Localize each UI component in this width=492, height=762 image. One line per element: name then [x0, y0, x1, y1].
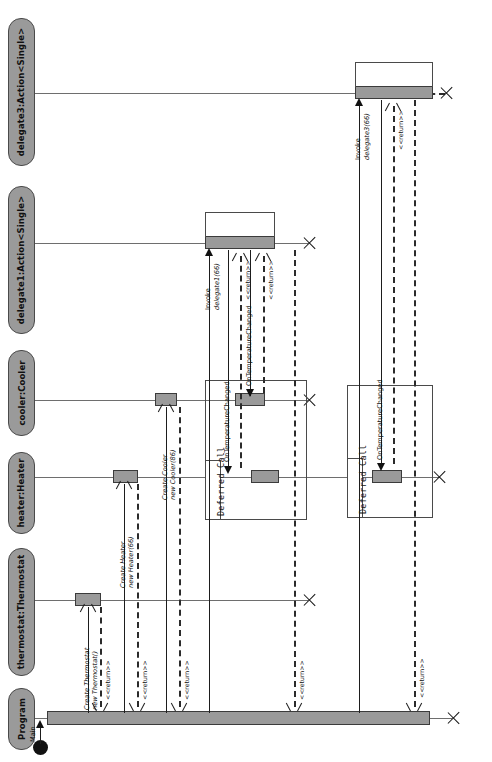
return-line-2: [137, 484, 139, 707]
lifeline-header-delegate1: delegate1:Action<Single>: [8, 186, 35, 334]
lifeline-header-delegate3: delegate3:Action<Single>: [8, 18, 35, 166]
message-arrowhead-create-heater: [119, 481, 129, 490]
message-sublabel-create-cooler: new Cooler(86): [170, 449, 178, 500]
activation-bar-delegate3: [355, 86, 433, 99]
fragment-label-2: Deferred Call: [359, 445, 369, 514]
nesting-bracket-delegate1: [205, 212, 275, 237]
message-line-create-cooler: [166, 407, 167, 713]
return-line-4: [240, 256, 242, 468]
message-sublabel-invoke-delegate1: delegate1(66): [214, 263, 222, 310]
return-arrowhead-3: [174, 702, 184, 711]
return-label-6: <<return>>: [298, 660, 305, 700]
activation-bar-program-main: [47, 711, 430, 725]
message-label-ontempchanged-heater-2: OnTemperatureChanged: [377, 379, 385, 460]
lifeline-label: heater:Heater: [17, 459, 27, 528]
lifeline-header-cooler: cooler:Cooler: [8, 350, 35, 436]
return-arrowhead-2: [132, 702, 142, 711]
activation-bar-delegate1: [205, 236, 275, 249]
lifeline-header-thermostat: thermostat:Thermostat: [8, 548, 35, 676]
lifeline-rail-thermostat-b: [200, 600, 308, 601]
message-arrowhead-create-thermostat: [83, 604, 93, 613]
destruction-marker-program: [447, 711, 461, 725]
lifeline-rail-delegate3: [35, 93, 355, 94]
message-arrowhead-ontempchanged-heater: [224, 466, 232, 474]
return-line-7: [393, 106, 395, 464]
message-label-invoke-delegate1: Invoke: [205, 288, 213, 310]
message-sublabel-invoke-delegate3: delegate3(66): [364, 113, 372, 160]
lifeline-rail-program: [35, 718, 47, 719]
message-label-ontempchanged-heater: OnTemperatureChanged: [224, 381, 232, 462]
message-arrowhead-invoke-delegate1: [205, 248, 213, 256]
return-line-8: [414, 100, 416, 707]
return-arrowhead-8: [409, 702, 419, 711]
message-arrowhead-invoke-delegate3: [355, 98, 363, 106]
return-line-6: [294, 250, 296, 707]
message-line-invoke-delegate3: [359, 100, 360, 713]
message-line-create-heater: [124, 484, 125, 713]
destruction-marker-heater: [433, 470, 447, 484]
destruction-marker-thermostat: [303, 593, 317, 607]
destruction-marker-delegate1: [303, 236, 317, 250]
message-sublabel-create-heater: new Heater(66): [128, 536, 136, 588]
return-label-3: <<return>>: [183, 660, 190, 700]
lifeline-rail-thermostat: [35, 600, 200, 601]
sequence-diagram-canvas: delegate3:Action<Single> delegate1:Actio…: [0, 0, 492, 762]
return-line-3: [179, 407, 181, 707]
return-label-5: <<return>>: [267, 260, 274, 300]
lifeline-label: thermostat:Thermostat: [17, 555, 27, 670]
message-arrowhead-create-cooler: [161, 404, 171, 413]
return-label-2: <<return>>: [141, 660, 148, 700]
message-label-main: Main: [30, 726, 38, 742]
message-label-invoke-delegate3: Invoke: [355, 138, 363, 160]
nesting-bracket-delegate3: [355, 62, 433, 87]
message-arrowhead-ontempchanged-heater-2: [377, 463, 385, 471]
lifeline-rail-delegate1: [35, 243, 205, 244]
return-line-1: [100, 607, 102, 707]
lifeline-label: cooler:Cooler: [17, 360, 27, 425]
lifeline-label: delegate1:Action<Single>: [17, 196, 27, 324]
return-label-8: <<return>>: [418, 658, 425, 698]
destruction-marker-delegate3: [440, 86, 454, 100]
return-line-5: [263, 256, 265, 393]
message-line-invoke-delegate1: [209, 250, 210, 713]
return-label-1: <<return>>: [104, 660, 111, 700]
lifeline-header-heater: heater:Heater: [8, 452, 35, 534]
return-arrowhead-6: [289, 702, 299, 711]
lifeline-label: delegate3:Action<Single>: [17, 28, 27, 156]
message-arrowhead-ontempchanged-cooler: [246, 389, 254, 397]
lifeline-label: Program: [17, 698, 27, 740]
message-label-ontempchanged-cooler: OnTemperatureChanged: [246, 305, 254, 386]
return-arrowhead-1: [95, 702, 105, 711]
return-label-7: <<return>>: [397, 110, 404, 150]
